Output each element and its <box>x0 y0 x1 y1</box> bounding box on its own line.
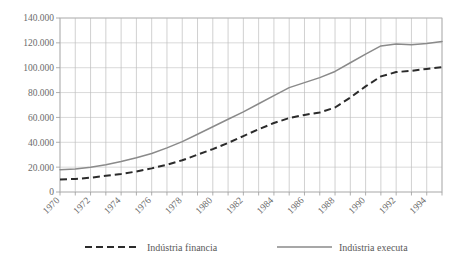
x-axis-tick-label: 1974 <box>102 195 123 216</box>
x-axis-tick-label: 1994 <box>408 195 429 216</box>
x-axis-tick-label: 1982 <box>224 195 245 216</box>
y-axis-tick-label: 80.000 <box>28 88 54 98</box>
y-axis-tick-label: 120.000 <box>23 38 54 48</box>
x-axis-tick-label: 1992 <box>377 195 398 216</box>
x-axis-tick-label: 1972 <box>71 195 92 216</box>
x-axis-tick-label: 1986 <box>285 195 306 216</box>
y-axis-tick-label: 20.000 <box>28 163 54 173</box>
series-line-industria-executa <box>60 42 442 170</box>
x-axis-ticks <box>60 192 442 196</box>
x-axis-tick-label: 1976 <box>133 195 154 216</box>
line-chart: 020.00040.00060.00080.000100.000120.0001… <box>0 0 458 262</box>
y-axis-tick-label: 40.000 <box>28 138 54 148</box>
x-axis-tick-label: 1970 <box>41 195 62 216</box>
chart-legend: Indústria financiaIndústria executa <box>85 242 408 253</box>
y-axis-labels: 020.00040.00060.00080.000100.000120.0001… <box>23 13 60 197</box>
x-axis-tick-label: 1984 <box>255 195 276 216</box>
plot-frame <box>60 18 442 192</box>
vertical-gridlines <box>60 18 442 192</box>
y-axis-tick-label: 140.000 <box>23 13 54 23</box>
horizontal-gridlines <box>60 18 442 192</box>
plot-area-border <box>60 18 442 192</box>
chart-container: 020.00040.00060.00080.000100.000120.0001… <box>0 0 458 262</box>
legend-item: Indústria financia <box>85 242 218 253</box>
data-series-layer <box>60 42 442 180</box>
x-axis-tick-label: 1990 <box>347 195 368 216</box>
x-axis-tick-label: 1980 <box>194 195 215 216</box>
y-axis-tick-label: 60.000 <box>28 113 54 123</box>
x-axis-tick-label: 1978 <box>163 195 184 216</box>
y-axis-tick-label: 100.000 <box>23 63 54 73</box>
legend-label: Indústria executa <box>339 242 408 253</box>
x-axis-labels: 1970197219741976197819801982198419861988… <box>41 195 428 216</box>
x-axis-tick-label: 1988 <box>316 195 337 216</box>
legend-label: Indústria financia <box>147 242 218 253</box>
legend-item: Indústria executa <box>277 242 408 253</box>
